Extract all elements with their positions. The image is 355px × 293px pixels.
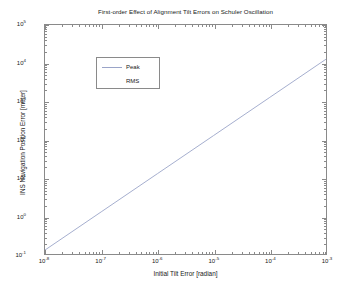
- y-axis-minor-tick: [324, 199, 326, 200]
- x-axis-minor-tick: [198, 25, 199, 27]
- y-axis-minor-tick: [45, 226, 47, 227]
- y-axis-minor-tick: [324, 223, 326, 224]
- y-axis-minor-tick: [324, 156, 326, 157]
- y-axis-minor-tick: [324, 69, 326, 70]
- y-axis-minor-tick: [45, 40, 47, 41]
- x-axis-tick: [45, 25, 46, 29]
- data-series-peak: [45, 59, 326, 250]
- y-axis-minor-tick: [45, 219, 47, 220]
- y-axis-tick: [45, 141, 49, 142]
- x-axis-minor-tick: [305, 252, 306, 254]
- x-tick-label: 10-7: [95, 258, 106, 264]
- x-axis-minor-tick: [93, 25, 94, 27]
- x-axis-minor-tick: [85, 252, 86, 254]
- y-axis-minor-tick: [45, 199, 47, 200]
- x-axis-minor-tick: [141, 25, 142, 27]
- x-axis-minor-tick: [269, 25, 270, 27]
- y-axis-minor-tick: [324, 188, 326, 189]
- x-axis-minor-tick: [136, 25, 137, 27]
- y-axis-minor-tick: [324, 149, 326, 150]
- x-axis-minor-tick: [319, 25, 320, 27]
- y-axis-minor-tick: [45, 104, 47, 105]
- x-axis-minor-tick: [175, 252, 176, 254]
- y-axis-minor-tick: [324, 229, 326, 230]
- chart-title: First-order Effect of Alignment Tilt Err…: [44, 8, 327, 15]
- y-axis-minor-tick: [324, 194, 326, 195]
- y-axis-minor-tick: [45, 117, 47, 118]
- x-axis-minor-tick: [96, 252, 97, 254]
- y-tick-label: 10-1: [15, 252, 26, 258]
- y-axis-tick: [45, 218, 49, 219]
- x-axis-minor-tick: [325, 252, 326, 254]
- y-axis-label: INS Navigation Position Error [meter]: [19, 63, 26, 223]
- x-axis-minor-tick: [129, 252, 130, 254]
- y-axis-minor-tick: [324, 117, 326, 118]
- y-axis-minor-tick: [324, 219, 326, 220]
- y-axis-tick: [322, 64, 326, 65]
- y-axis-tick: [322, 218, 326, 219]
- x-axis-minor-tick: [62, 25, 63, 27]
- y-axis-minor-tick: [324, 52, 326, 53]
- y-axis-minor-tick: [324, 152, 326, 153]
- y-axis-minor-tick: [45, 181, 47, 182]
- y-axis-minor-tick: [324, 183, 326, 184]
- y-axis-minor-tick: [324, 106, 326, 107]
- x-axis-minor-tick: [232, 252, 233, 254]
- x-axis-minor-tick: [212, 25, 213, 27]
- x-axis-minor-tick: [156, 252, 157, 254]
- y-axis-minor-tick: [45, 244, 47, 245]
- legend-line-sample-rms: [102, 81, 122, 82]
- y-axis-minor-tick: [324, 75, 326, 76]
- x-axis-tick: [215, 25, 216, 29]
- y-axis-minor-tick: [324, 167, 326, 168]
- x-axis-minor-tick: [254, 252, 255, 254]
- y-axis-minor-tick: [324, 90, 326, 91]
- y-axis-minor-tick: [45, 122, 47, 123]
- x-axis-minor-tick: [149, 25, 150, 27]
- x-axis-minor-tick: [249, 252, 250, 254]
- y-axis-minor-tick: [324, 40, 326, 41]
- x-axis-minor-tick: [129, 25, 130, 27]
- y-axis-minor-tick: [45, 106, 47, 107]
- y-axis-minor-tick: [45, 223, 47, 224]
- x-axis-tick: [271, 250, 272, 254]
- x-axis-minor-tick: [175, 25, 176, 27]
- x-axis-minor-tick: [93, 252, 94, 254]
- x-axis-minor-tick: [202, 25, 203, 27]
- x-axis-minor-tick: [288, 252, 289, 254]
- x-axis-minor-tick: [298, 25, 299, 27]
- x-tick-label: 10-8: [39, 258, 50, 264]
- y-axis-minor-tick: [45, 206, 47, 207]
- x-axis-tick: [158, 250, 159, 254]
- y-axis-minor-tick: [324, 146, 326, 147]
- y-axis-minor-tick: [324, 31, 326, 32]
- y-axis-minor-tick: [324, 67, 326, 68]
- x-axis-minor-tick: [156, 25, 157, 27]
- y-axis-tick: [322, 141, 326, 142]
- chart-legend: Peak RMS: [96, 57, 160, 89]
- y-axis-minor-tick: [324, 191, 326, 192]
- x-axis-minor-tick: [232, 25, 233, 27]
- y-axis-tick: [45, 102, 49, 103]
- x-axis-minor-tick: [209, 252, 210, 254]
- y-axis-minor-tick: [324, 185, 326, 186]
- y-axis-minor-tick: [324, 144, 326, 145]
- y-axis-minor-tick: [324, 104, 326, 105]
- x-axis-minor-tick: [89, 25, 90, 27]
- x-axis-minor-tick: [79, 252, 80, 254]
- y-axis-minor-tick: [45, 183, 47, 184]
- data-line-layer: [45, 25, 326, 254]
- y-axis-minor-tick: [45, 129, 47, 130]
- y-axis-minor-tick: [324, 34, 326, 35]
- y-axis-minor-tick: [45, 146, 47, 147]
- x-axis-minor-tick: [146, 252, 147, 254]
- y-axis-minor-tick: [45, 72, 47, 73]
- x-axis-minor-tick: [119, 252, 120, 254]
- x-axis-tick: [102, 250, 103, 254]
- x-axis-label: Initial Tilt Error [radian]: [44, 270, 327, 277]
- x-axis-minor-tick: [96, 25, 97, 27]
- x-axis-minor-tick: [153, 252, 154, 254]
- x-axis-minor-tick: [266, 252, 267, 254]
- x-axis-tick: [158, 25, 159, 29]
- legend-entry-rms: RMS: [97, 73, 159, 89]
